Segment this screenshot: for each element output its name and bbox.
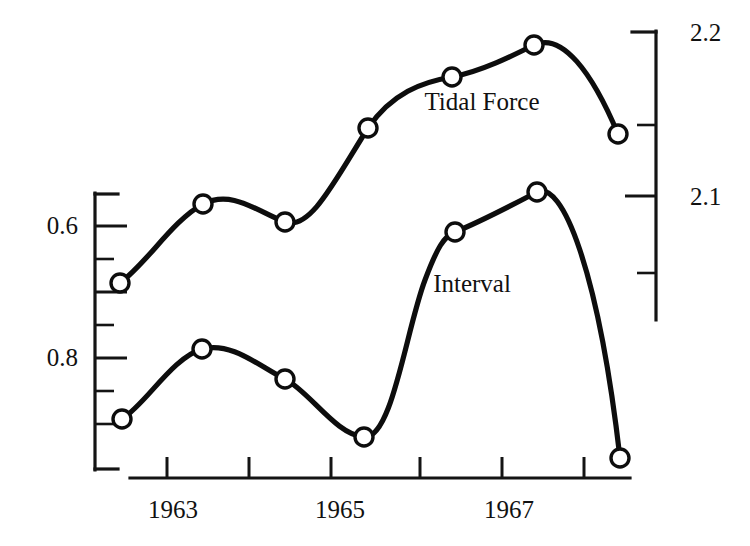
x-axis-label-1963: 1963: [148, 496, 198, 523]
tidal-force-point-1966: [359, 119, 377, 137]
interval-line: [122, 191, 620, 458]
interval-point-1964: [193, 340, 211, 358]
right-axis-label-2-2: 2.2: [690, 19, 721, 46]
line-chart-figure: 0.6 0.8 2.2 2.1 1963 1965 1967: [0, 0, 750, 546]
series-tidal-force: Tidal Force: [111, 36, 627, 292]
tidal-force-point-1968: [525, 36, 543, 54]
interval-point-1963: [113, 410, 131, 428]
x-axis-label-1967: 1967: [484, 496, 534, 523]
x-axis-label-1965: 1965: [315, 496, 365, 523]
tidal-force-point-1969: [609, 125, 627, 143]
right-axis-label-2-1: 2.1: [690, 183, 721, 210]
left-axis: 0.6 0.8: [47, 193, 127, 470]
tidal-force-point-1964: [194, 195, 212, 213]
chart-container: 0.6 0.8 2.2 2.1 1963 1965 1967: [0, 0, 750, 546]
left-axis-label-0-8: 0.8: [47, 344, 78, 371]
x-axis: 1963 1965 1967: [130, 457, 630, 523]
tidal-force-line: [120, 43, 618, 283]
interval-point-1966: [355, 428, 373, 446]
interval-point-1965: [276, 370, 294, 388]
interval-point-1967: [446, 223, 464, 241]
tidal-force-point-1967: [443, 68, 461, 86]
series-label-interval: Interval: [433, 270, 511, 297]
right-axis: 2.2 2.1: [625, 19, 721, 320]
interval-point-1968: [528, 183, 546, 201]
interval-point-1969: [611, 449, 629, 467]
tidal-force-point-1963: [111, 274, 129, 292]
tidal-force-point-1965: [276, 213, 294, 231]
series-interval: Interval: [113, 183, 629, 467]
left-axis-label-0-6: 0.6: [47, 212, 78, 239]
series-label-tidal-force: Tidal Force: [424, 88, 539, 115]
